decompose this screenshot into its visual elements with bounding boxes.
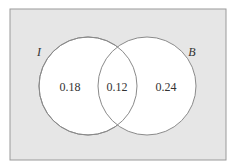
region-b-only-value: 0.24 xyxy=(156,80,177,94)
region-intersection-value: 0.12 xyxy=(107,80,128,94)
region-i-only-value: 0.18 xyxy=(60,80,81,94)
venn-diagram: I B 0.18 0.12 0.24 xyxy=(0,0,240,167)
set-b-label: B xyxy=(188,45,196,59)
